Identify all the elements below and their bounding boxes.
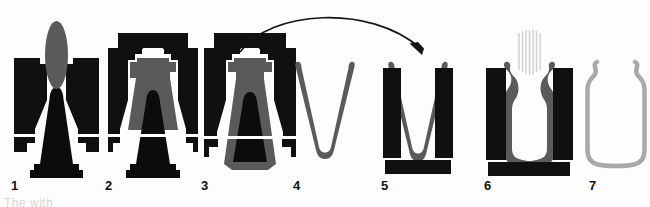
- top-plate: [118, 33, 188, 48]
- parison-blob: [45, 21, 68, 89]
- mold-half-right: [553, 68, 573, 160]
- stage-1-label: 1: [11, 178, 18, 193]
- blow-air-stream: [519, 30, 540, 75]
- parting-line: [108, 134, 198, 137]
- stage-3-label: 3: [201, 178, 208, 193]
- stage-6-label: 6: [484, 178, 491, 193]
- process-diagram: 1 2 3: [0, 0, 650, 207]
- mold-half-left: [383, 68, 401, 158]
- parting-line: [204, 136, 296, 139]
- stage-5-label: 5: [381, 178, 388, 193]
- stage-7-label: 7: [589, 178, 596, 193]
- clipped-caption: The with: [4, 196, 53, 207]
- stage-4-label: 4: [293, 178, 301, 193]
- process-diagram-svg: 1 2 3: [0, 0, 650, 207]
- mold-half-right: [435, 68, 453, 158]
- stage-2-label: 2: [105, 178, 112, 193]
- base-plate: [488, 162, 570, 176]
- base-plate: [385, 160, 451, 174]
- mold-half-left: [486, 68, 506, 160]
